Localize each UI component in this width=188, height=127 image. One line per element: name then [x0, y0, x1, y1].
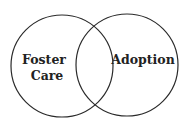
venn-diagram: Foster Care Adoption: [0, 0, 188, 127]
foster-care-label-line1: Foster: [22, 52, 66, 67]
foster-care-label-line2: Care: [31, 68, 64, 83]
adoption-label: Adoption: [110, 52, 174, 67]
